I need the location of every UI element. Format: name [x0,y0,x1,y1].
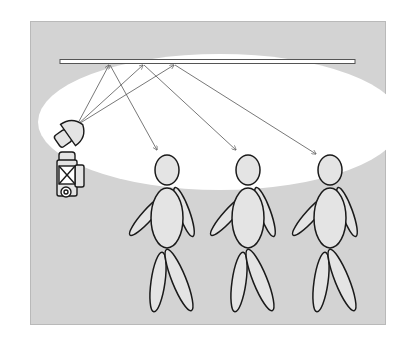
ceiling-reflector [60,60,355,64]
bounce-flash-diagram [0,0,406,340]
light-spill-area [38,54,402,190]
